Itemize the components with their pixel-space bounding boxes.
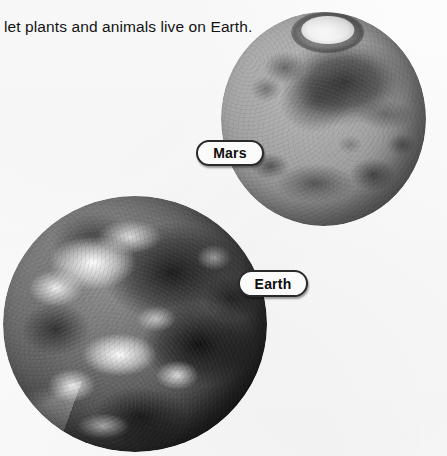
mars-polar-ice-cap	[301, 16, 354, 44]
earth-texture-speckle	[3, 196, 267, 452]
earth-planet-image	[3, 196, 267, 452]
callout-label-earth: Earth	[238, 270, 308, 297]
textbook-page: let plants and animals live on Earth. Ma…	[0, 0, 447, 456]
callout-label-mars: Mars	[196, 140, 264, 166]
mars-planet-image	[221, 12, 426, 226]
